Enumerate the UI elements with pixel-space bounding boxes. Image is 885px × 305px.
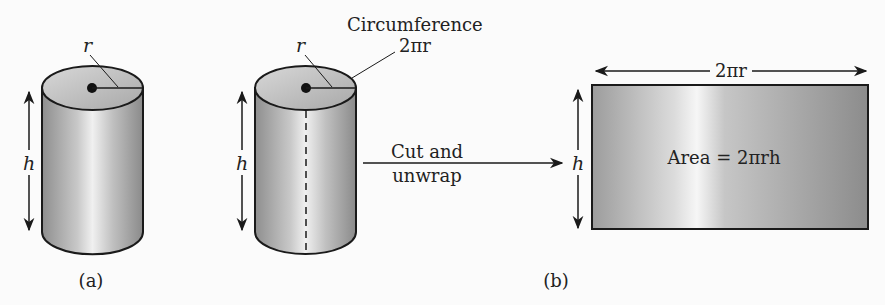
cut-unwrap-arrow: Cut and unwrap (363, 141, 562, 186)
cylinder-surface-area-diagram: r h (a) r Circumference 2πr h Cut and un… (0, 0, 885, 305)
height-label-b: h (236, 152, 248, 174)
area-label: Area = 2πrh (667, 147, 781, 168)
unwrapped-rectangle: 2πr h Area = 2πrh (572, 60, 868, 229)
circumference-value: 2πr (399, 35, 431, 56)
radius-label-a: r (83, 34, 94, 56)
height-label-rect: h (572, 152, 584, 174)
radius-label-b: r (296, 34, 307, 56)
cut-and-label: Cut and (391, 141, 463, 162)
height-label-a: h (23, 152, 35, 174)
unwrap-label: unwrap (392, 165, 461, 186)
caption-a: (a) (79, 270, 104, 291)
width-label: 2πr (715, 60, 747, 81)
circumference-leader (352, 52, 395, 78)
cylinder-b: r Circumference 2πr h (236, 14, 483, 254)
caption-b: (b) (543, 270, 569, 291)
circumference-label: Circumference (347, 14, 483, 35)
cylinder-a-body (42, 88, 143, 254)
cylinder-a: r h (a) (23, 34, 143, 291)
